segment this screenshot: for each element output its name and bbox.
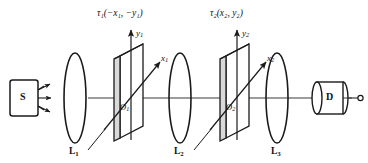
plane-2-edge [220,56,226,141]
plane-2-group [194,30,266,150]
plane-2-x-axis-label: x2 [267,54,274,64]
plane-1-origin-label: O1 [120,103,129,112]
detector-group [312,82,363,114]
detector-terminal [358,95,363,100]
diagram-canvas [0,0,368,163]
source-label: S [20,92,26,102]
lens-1-group [64,53,86,143]
plane-1-tau-label: τ₁(−x₁, −y₁) [97,9,143,19]
plane-1-y-axis-label: y1 [136,29,143,39]
plane-2-y-axis-label: y2 [242,29,249,39]
plane-1-group [88,30,160,150]
plane-1-x-axis-tail [88,128,106,150]
lens-1 [64,53,86,143]
plane-2-x-axis-tail [194,128,212,150]
detector-aperture [312,82,322,114]
plane-2-origin-label: O2 [226,103,235,112]
plane-1-x-axis-label: x1 [161,54,168,64]
plane-2-tau-label: τ₂(x₂, y₂) [210,9,243,19]
detector-label: D [326,92,333,102]
source-rays [38,84,51,112]
lens-1-label: L1 [69,147,79,157]
lens-2-label: L2 [174,147,184,157]
lens-3-label: L3 [271,147,281,157]
source-group [10,80,51,116]
optical-diagram: τ₁(−x₁, −y₁) y1 x1 O1 τ₂(x₂, y₂) y2 x2 O… [0,0,368,163]
plane-1-edge [114,56,120,141]
